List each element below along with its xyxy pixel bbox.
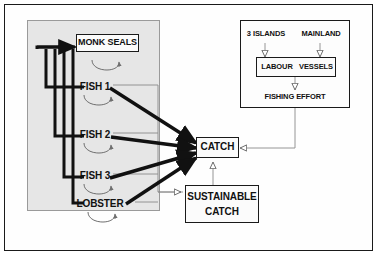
diagram-graphics xyxy=(0,0,379,257)
labour-vessels-box[interactable] xyxy=(257,58,336,77)
arrow-fishing-effort-to-catch xyxy=(240,108,295,148)
catch-box[interactable] xyxy=(197,138,239,158)
diagram-canvas: MONK SEALS FISH 1 FISH 2 FISH 3 LOBSTER … xyxy=(0,0,379,257)
self-loop-lobster xyxy=(88,212,115,222)
monk-seals-box[interactable] xyxy=(77,35,139,52)
sustainable-catch-box[interactable] xyxy=(186,186,259,223)
